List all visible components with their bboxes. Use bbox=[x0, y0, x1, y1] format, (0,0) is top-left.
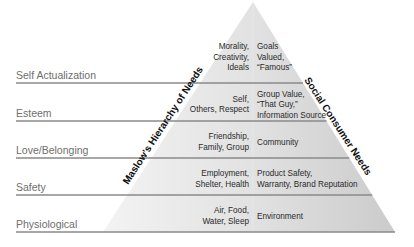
social-need-text: Group Value, bbox=[257, 90, 305, 99]
social-need-text: Environment bbox=[257, 212, 304, 221]
maslow-need-text: Creativity, bbox=[213, 53, 249, 62]
social-need-text: Goals bbox=[257, 42, 278, 51]
social-need-text: Product Safety, bbox=[257, 169, 312, 178]
level-label: Esteem bbox=[16, 107, 52, 119]
maslow-need-text: Family, Group bbox=[198, 143, 249, 152]
level-label: Love/Belonging bbox=[16, 144, 89, 156]
maslow-need-text: Friendship, bbox=[208, 132, 249, 141]
maslow-need-text: Shelter, Health bbox=[195, 180, 249, 189]
social-need-text: “Famous” bbox=[257, 63, 292, 72]
level-label: Physiological bbox=[16, 218, 77, 230]
maslow-need-text: Air, Food, bbox=[214, 206, 249, 215]
social-need-text: Information Source bbox=[257, 111, 327, 120]
maslow-need-text: Others, Respect bbox=[190, 105, 250, 114]
maslow-need-text: Ideals bbox=[227, 63, 249, 72]
pyramid-shape bbox=[103, 2, 395, 232]
maslow-need-text: Water, Sleep bbox=[202, 217, 249, 226]
pyramid-diagram: Self ActualizationMorality,Creativity,Id… bbox=[0, 0, 414, 247]
social-need-text: Valued, bbox=[257, 53, 284, 62]
level-label: Safety bbox=[16, 181, 47, 193]
social-need-text: Warranty, Brand Reputation bbox=[257, 180, 358, 189]
maslow-need-text: Employment, bbox=[201, 169, 249, 178]
social-need-text: “That Guy,” bbox=[257, 100, 298, 109]
maslow-need-text: Self, bbox=[233, 95, 249, 104]
social-need-text: Community bbox=[257, 138, 299, 147]
level-label: Self Actualization bbox=[16, 69, 96, 81]
maslow-need-text: Morality, bbox=[219, 42, 249, 51]
